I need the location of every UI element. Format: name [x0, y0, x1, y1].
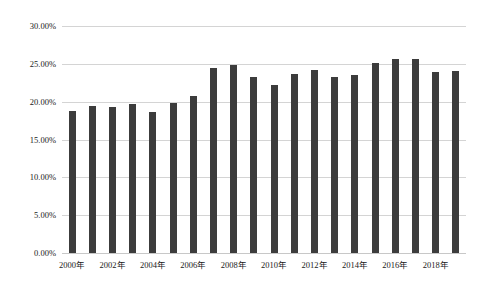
y-axis-tick-label: 25.00% — [0, 59, 56, 69]
bar — [291, 74, 298, 253]
bar — [129, 104, 136, 253]
x-axis-labels: 2000年2002年2004年2006年2008年2010年2012年2014年… — [62, 258, 466, 278]
bar — [230, 65, 237, 253]
bar — [170, 103, 177, 253]
y-axis-tick-label: 30.00% — [0, 21, 56, 31]
bar — [250, 77, 257, 253]
y-axis-tick-label: 20.00% — [0, 97, 56, 107]
x-axis-tick-label: 2008年 — [221, 258, 247, 270]
y-axis-tick-label: 0.00% — [0, 248, 56, 258]
x-axis-tick-label: 2000年 — [59, 258, 85, 270]
bar — [392, 59, 399, 253]
bar — [69, 111, 76, 253]
bar — [149, 112, 156, 253]
plot-area — [62, 26, 466, 253]
x-axis-tick-label: 2014年 — [342, 258, 368, 270]
x-axis-tick-label: 2018年 — [423, 258, 449, 270]
bar — [210, 68, 217, 253]
bar — [109, 107, 116, 253]
bar — [452, 71, 459, 253]
bar — [89, 106, 96, 253]
y-axis-tick-label: 5.00% — [0, 210, 56, 220]
bar-chart: 30.00%25.00%20.00%15.00%10.00%5.00%0.00%… — [0, 0, 478, 291]
y-axis-tick-label: 15.00% — [0, 135, 56, 145]
bar — [351, 75, 358, 253]
bar — [190, 96, 197, 253]
x-axis-tick-label: 2004年 — [140, 258, 166, 270]
x-axis-tick-label: 2012年 — [302, 258, 328, 270]
bar — [271, 85, 278, 253]
bar — [432, 72, 439, 253]
y-axis-tick-label: 10.00% — [0, 172, 56, 182]
x-axis-tick-label: 2016年 — [382, 258, 408, 270]
bar — [311, 70, 318, 253]
x-axis-tick-label: 2006年 — [180, 258, 206, 270]
bar-series — [62, 26, 466, 253]
bar — [412, 59, 419, 253]
x-axis-tick-label: 2010年 — [261, 258, 287, 270]
bar — [331, 77, 338, 253]
x-axis-tick-label: 2002年 — [100, 258, 126, 270]
bar — [372, 63, 379, 253]
gridline — [62, 253, 466, 254]
